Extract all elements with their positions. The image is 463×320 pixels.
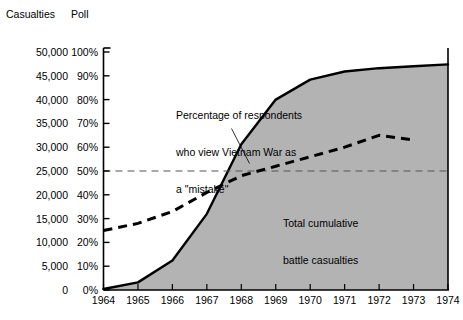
poll-annotation-line-1: Percentage of respondents (176, 109, 302, 121)
area-annotation-line-2: battle casualties (283, 254, 358, 266)
year-tick-label: 1970 (299, 295, 322, 306)
poll-tick-label: 80% (77, 94, 98, 105)
poll-tick-label: 50% (77, 166, 98, 177)
year-tick-label: 1969 (264, 295, 287, 306)
year-tick-label: 1968 (230, 295, 253, 306)
poll-axis-title: Poll (71, 8, 89, 20)
casualties-axis-title: Casualties (6, 8, 55, 20)
poll-tick-label: 100% (71, 47, 98, 58)
poll-tick-label: 10% (77, 261, 98, 272)
poll-tick-label: 40% (77, 190, 98, 201)
poll-tick-label: 20% (77, 237, 98, 248)
poll-tick-label: 90% (77, 71, 98, 82)
casualties-tick-label: 45,000 (36, 71, 68, 82)
poll-tick-label: 30% (77, 213, 98, 224)
casualties-tick-label: 20,000 (36, 190, 68, 201)
area-annotation-line-1: Total cumulative (283, 217, 358, 229)
year-tick-label: 1966 (161, 295, 184, 306)
year-tick-label: 1965 (126, 295, 149, 306)
casualties-tick-label: 35,000 (36, 118, 68, 129)
casualties-tick-label: 30,000 (36, 142, 68, 153)
casualties-tick-label: 15,000 (36, 213, 68, 224)
casualties-tick-label: 25,000 (36, 166, 68, 177)
area-series-annotation: Total cumulative battle casualties (283, 192, 358, 291)
year-tick-label: 1967 (195, 295, 218, 306)
poll-tick-label: 70% (77, 118, 98, 129)
poll-tick-label: 60% (77, 142, 98, 153)
year-tick-label: 1973 (402, 295, 425, 306)
poll-annotation-line-2: who view Vietnam War as (176, 146, 302, 158)
year-tick-label: 1964 (92, 295, 115, 306)
year-tick-label: 1974 (436, 295, 459, 306)
casualties-tick-label: 0 (62, 285, 68, 296)
casualties-tick-label: 50,000 (36, 47, 68, 58)
year-tick-label: 1971 (333, 295, 356, 306)
chart-figure: Casualties Poll 05,00010,00015,00020,000… (0, 0, 463, 320)
year-tick-label: 1972 (367, 295, 390, 306)
casualties-tick-label: 40,000 (36, 94, 68, 105)
casualties-tick-label: 5,000 (42, 261, 68, 272)
casualties-tick-label: 10,000 (36, 237, 68, 248)
